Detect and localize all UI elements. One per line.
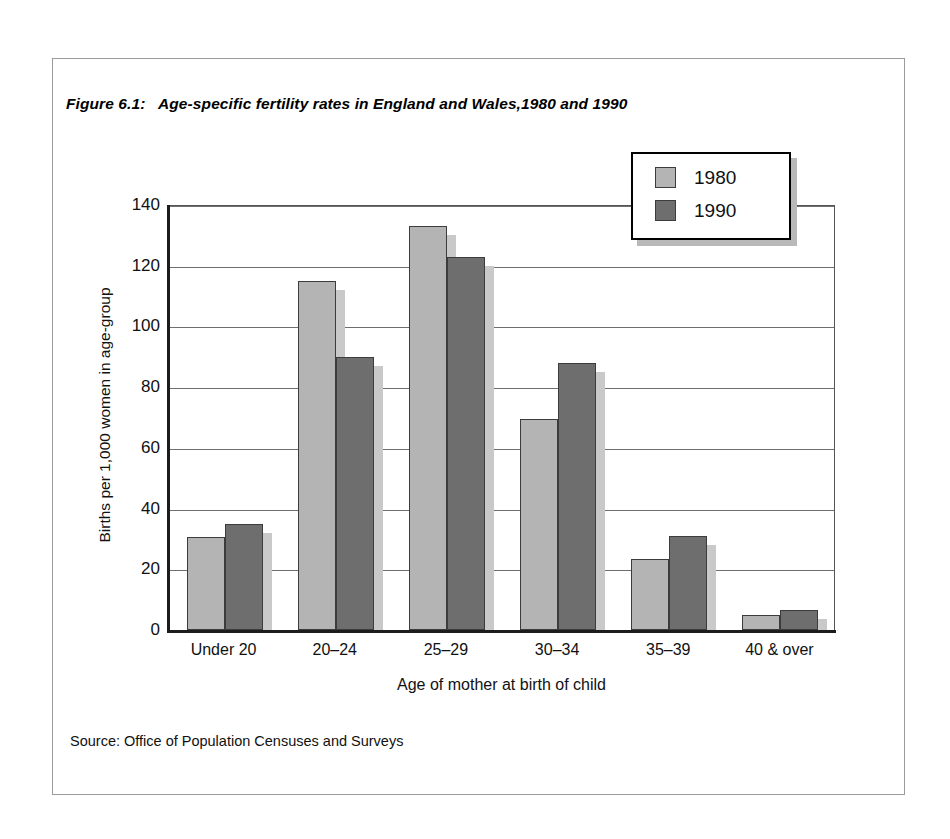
x-tick-label: 25–29 (390, 641, 501, 659)
y-tick-label: 140 (116, 195, 160, 215)
legend-box: 19801990 (631, 152, 791, 240)
legend-swatch-1980 (655, 167, 676, 188)
legend-label-1990: 1990 (694, 201, 736, 220)
bar-1980-40-over[interactable] (742, 615, 780, 630)
bar-1980-30-34[interactable] (520, 419, 558, 630)
bar-1980-35-39[interactable] (631, 559, 669, 630)
x-tick-label: 30–34 (502, 641, 613, 659)
source-note: Source: Office of Population Censuses an… (70, 733, 403, 749)
x-tick-label: Under 20 (168, 641, 279, 659)
x-tick-label: 20–24 (279, 641, 390, 659)
y-tick-label: 80 (116, 377, 160, 397)
bar-1990-under-20[interactable] (225, 524, 263, 630)
y-axis-line (167, 205, 170, 631)
figure-container: Figure 6.1:Age-specific fertility rates … (0, 0, 950, 839)
figure-title-text: Age-specific fertility rates in England … (158, 95, 627, 112)
gridline (169, 327, 834, 328)
gridline (169, 388, 834, 389)
plot-area (168, 205, 835, 630)
legend-label-1980: 1980 (694, 168, 736, 187)
x-axis-line (167, 630, 836, 633)
bar-1980-under-20[interactable] (187, 537, 225, 630)
y-tick-label: 120 (116, 256, 160, 276)
bar-1990-25-29[interactable] (447, 257, 485, 630)
bar-1990-30-34[interactable] (558, 363, 596, 630)
legend-item-1980[interactable]: 1980 (655, 166, 736, 188)
x-tick-label: 40 & over (724, 641, 835, 659)
y-axis-tick-labels: 020406080100120140 (108, 0, 160, 839)
bar-1980-20-24[interactable] (298, 281, 336, 630)
bar-1990-20-24[interactable] (336, 357, 374, 630)
y-tick-label: 40 (116, 499, 160, 519)
legend-swatch-1990 (655, 200, 676, 221)
x-tick-label: 35–39 (613, 641, 724, 659)
bar-1990-40-over[interactable] (780, 610, 818, 630)
bar-1990-35-39[interactable] (669, 536, 707, 630)
y-tick-label: 20 (116, 559, 160, 579)
gridline (169, 510, 834, 511)
bar-1980-25-29[interactable] (409, 226, 447, 630)
figure-title: Figure 6.1:Age-specific fertility rates … (66, 95, 836, 113)
x-axis-title: Age of mother at birth of child (168, 676, 835, 694)
y-tick-label: 60 (116, 438, 160, 458)
gridline (169, 449, 834, 450)
legend-item-1990[interactable]: 1990 (655, 199, 736, 221)
gridline (169, 267, 834, 268)
y-tick-label: 100 (116, 316, 160, 336)
y-tick-label: 0 (116, 620, 160, 640)
